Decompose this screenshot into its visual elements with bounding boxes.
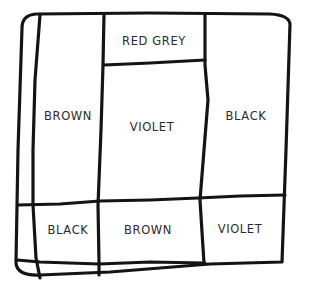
horizontal-line-lower: [18, 195, 285, 205]
region-label-brown-top: BROWN: [44, 109, 92, 123]
left-inner-line: [33, 15, 40, 278]
region-label-black-bottom: BLACK: [48, 223, 89, 237]
region-label-violet-bottom: VIOLET: [218, 222, 263, 236]
red-grey-bottom-line: [104, 60, 205, 65]
region-label-violet-top: VIOLET: [130, 120, 175, 134]
region-label-black-top: BLACK: [226, 109, 267, 123]
column-line-2: [98, 14, 104, 275]
region-label-red-grey: RED GREY: [122, 34, 186, 48]
bottom-strip-line: [17, 260, 205, 264]
column-line-3: [200, 14, 208, 263]
region-label-brown-bottom: BROWN: [124, 223, 172, 237]
